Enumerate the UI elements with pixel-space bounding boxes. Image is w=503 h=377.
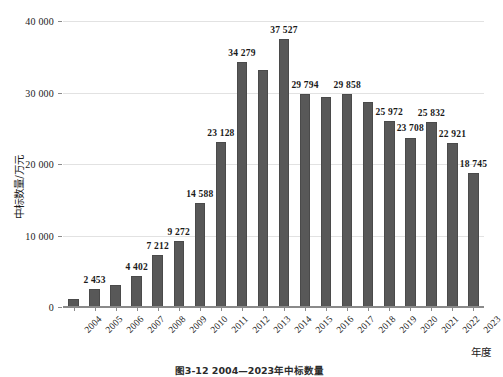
x-tick-label-2005: 2005 bbox=[103, 314, 124, 335]
x-tick-mark bbox=[305, 307, 306, 311]
bar-value-label: 4 402 bbox=[125, 263, 147, 273]
bar-value-label: 25 832 bbox=[418, 109, 445, 119]
y-tick-label: 0 bbox=[49, 302, 54, 313]
bar-2021[interactable] bbox=[426, 122, 437, 307]
x-tick-label-2012: 2012 bbox=[251, 314, 272, 335]
x-tick-mark bbox=[116, 307, 117, 311]
bar-value-label: 23 128 bbox=[207, 129, 234, 139]
bar-value-label: 34 279 bbox=[228, 49, 255, 59]
bar-value-label: 29 858 bbox=[334, 81, 361, 91]
bar-value-label: 9 272 bbox=[168, 228, 190, 238]
y-tick-mark bbox=[58, 93, 62, 94]
x-tick-mark bbox=[242, 307, 243, 311]
bar-value-label: 7 212 bbox=[147, 242, 169, 252]
plot-area: 010 00020 00030 00040 00020042 453200520… bbox=[63, 21, 484, 307]
y-tick-mark bbox=[58, 236, 62, 237]
x-tick-label-2011: 2011 bbox=[229, 314, 250, 335]
bar-2006[interactable] bbox=[110, 285, 121, 307]
y-tick-label: 30 000 bbox=[25, 87, 54, 98]
x-tick-mark bbox=[74, 307, 75, 311]
x-tick-label-2006: 2006 bbox=[124, 314, 145, 335]
x-tick-label-2007: 2007 bbox=[145, 314, 166, 335]
x-tick-mark bbox=[137, 307, 138, 311]
x-tick-mark bbox=[473, 307, 474, 311]
y-tick-label: 40 000 bbox=[25, 16, 54, 27]
x-tick-mark bbox=[200, 307, 201, 311]
bar-slot bbox=[89, 21, 100, 307]
bar-2023[interactable] bbox=[468, 173, 479, 307]
bar-2019[interactable] bbox=[384, 121, 395, 307]
bar-2007[interactable] bbox=[131, 276, 142, 307]
bar-value-label: 2 453 bbox=[83, 276, 105, 286]
y-tick-mark bbox=[58, 307, 62, 308]
bar-2022[interactable] bbox=[447, 143, 458, 307]
y-axis-title: 中标数量/万元 bbox=[11, 155, 26, 219]
bar-slot bbox=[300, 21, 311, 307]
x-tick-mark bbox=[431, 307, 432, 311]
gridline bbox=[63, 164, 484, 165]
bar-slot bbox=[152, 21, 163, 307]
x-tick-label-2014: 2014 bbox=[293, 314, 314, 335]
bar-slot bbox=[216, 21, 227, 307]
bar-slot bbox=[237, 21, 248, 307]
bar-value-label: 37 527 bbox=[270, 26, 297, 36]
bar-2008[interactable] bbox=[152, 255, 163, 307]
x-tick-label-2009: 2009 bbox=[187, 314, 208, 335]
bar-slot bbox=[342, 21, 353, 307]
bar-2013[interactable] bbox=[258, 70, 269, 307]
x-tick-label-2017: 2017 bbox=[356, 314, 377, 335]
bar-2012[interactable] bbox=[237, 62, 248, 307]
x-tick-label-2004: 2004 bbox=[82, 314, 103, 335]
bar-value-label: 25 972 bbox=[376, 108, 403, 118]
bar-2011[interactable] bbox=[216, 142, 227, 307]
bar-slot bbox=[195, 21, 206, 307]
bar-slot bbox=[384, 21, 395, 307]
bar-2018[interactable] bbox=[363, 102, 374, 307]
bar-2020[interactable] bbox=[405, 138, 416, 308]
bar-2017[interactable] bbox=[342, 94, 353, 307]
x-tick-mark bbox=[452, 307, 453, 311]
x-tick-mark bbox=[221, 307, 222, 311]
x-tick-label-2021: 2021 bbox=[440, 314, 461, 335]
bar-2015[interactable] bbox=[300, 94, 311, 307]
x-tick-mark bbox=[179, 307, 180, 311]
bar-slot bbox=[405, 21, 416, 307]
gridline bbox=[63, 307, 484, 308]
x-tick-mark bbox=[347, 307, 348, 311]
bar-slot bbox=[426, 21, 437, 307]
y-tick-mark bbox=[58, 164, 62, 165]
x-tick-mark bbox=[389, 307, 390, 311]
gridline bbox=[63, 93, 484, 94]
x-axis-line bbox=[63, 306, 484, 307]
x-axis-title: 年度 bbox=[471, 344, 491, 359]
bar-2010[interactable] bbox=[195, 203, 206, 307]
bar-slot bbox=[68, 21, 79, 307]
gridline bbox=[63, 236, 484, 237]
bar-2016[interactable] bbox=[321, 97, 332, 307]
y-tick-label: 10 000 bbox=[25, 230, 54, 241]
bar-2014[interactable] bbox=[279, 39, 290, 307]
bar-slot bbox=[363, 21, 374, 307]
x-tick-label-2020: 2020 bbox=[419, 314, 440, 335]
x-tick-mark bbox=[263, 307, 264, 311]
x-tick-mark bbox=[284, 307, 285, 311]
x-tick-label-2023: 2023 bbox=[482, 314, 503, 335]
bar-2009[interactable] bbox=[174, 241, 185, 307]
x-tick-label-2013: 2013 bbox=[272, 314, 293, 335]
x-tick-label-2015: 2015 bbox=[314, 314, 335, 335]
x-tick-mark bbox=[95, 307, 96, 311]
bar-slot bbox=[110, 21, 121, 307]
bar-value-label: 23 708 bbox=[397, 124, 424, 134]
x-tick-mark bbox=[326, 307, 327, 311]
bar-value-label: 18 745 bbox=[460, 160, 487, 170]
bar-slot bbox=[279, 21, 290, 307]
x-tick-label-2016: 2016 bbox=[335, 314, 356, 335]
bar-2005[interactable] bbox=[89, 289, 100, 307]
x-tick-label-2019: 2019 bbox=[398, 314, 419, 335]
x-tick-label-2008: 2008 bbox=[166, 314, 187, 335]
bar-slot bbox=[174, 21, 185, 307]
bar-slot bbox=[258, 21, 269, 307]
x-tick-mark bbox=[410, 307, 411, 311]
bar-value-label: 29 794 bbox=[291, 81, 318, 91]
x-tick-label-2010: 2010 bbox=[208, 314, 229, 335]
